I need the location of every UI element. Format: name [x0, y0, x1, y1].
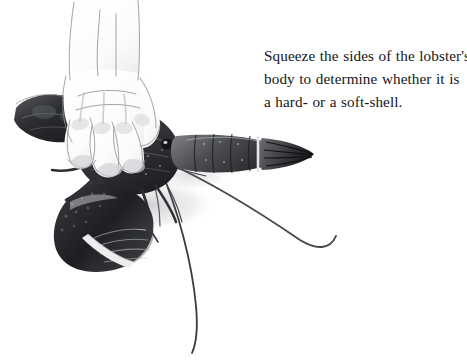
- caption-line-2: body to determine whether it is: [264, 67, 460, 90]
- instruction-caption: Squeeze the sides of the lobster's body …: [264, 44, 460, 113]
- illustration-page: Squeeze the sides of the lobster's body …: [0, 0, 467, 363]
- caption-line-3: a hard- or a soft-shell.: [264, 90, 460, 113]
- lobster-tail-fan: [258, 136, 315, 172]
- caption-line-1: Squeeze the sides of the lobster's: [264, 44, 460, 67]
